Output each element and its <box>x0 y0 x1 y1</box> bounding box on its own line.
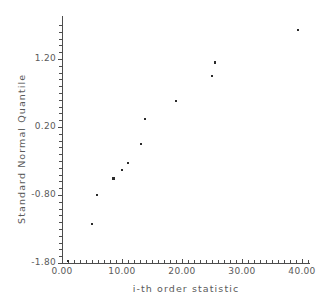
x-minor-tick <box>254 260 255 263</box>
x-minor-tick <box>98 260 99 263</box>
y-minor-tick <box>59 107 62 108</box>
y-major-tick <box>58 263 63 264</box>
x-minor-tick <box>140 260 141 263</box>
y-minor-tick <box>59 202 62 203</box>
y-minor-tick <box>59 154 62 155</box>
y-minor-tick <box>59 229 62 230</box>
data-point <box>91 223 94 226</box>
y-minor-tick <box>59 52 62 53</box>
x-minor-tick <box>134 260 135 263</box>
y-minor-tick <box>59 113 62 114</box>
y-axis-title: Standard Normal Quantile <box>16 74 27 224</box>
x-tick-label: 40.00 <box>287 266 317 276</box>
y-major-tick <box>58 59 63 60</box>
y-minor-tick <box>59 256 62 257</box>
data-point <box>214 61 217 64</box>
x-minor-tick <box>188 260 189 263</box>
x-minor-tick <box>236 260 237 263</box>
y-minor-tick <box>59 147 62 148</box>
y-minor-tick <box>59 141 62 142</box>
y-minor-tick <box>59 222 62 223</box>
x-minor-tick <box>152 260 153 263</box>
y-axis-line <box>62 16 63 264</box>
x-minor-tick <box>218 260 219 263</box>
y-minor-tick <box>59 120 62 121</box>
scatter-plot: 0.0010.0020.0030.0040.00 1.200.20-0.80-1… <box>0 0 325 301</box>
x-major-tick <box>302 259 303 264</box>
y-minor-tick <box>59 161 62 162</box>
y-tick-label: -0.80 <box>24 189 56 199</box>
x-minor-tick <box>92 260 93 263</box>
y-minor-tick <box>59 215 62 216</box>
y-minor-tick <box>59 243 62 244</box>
x-minor-tick <box>272 260 273 263</box>
y-minor-tick <box>59 25 62 26</box>
x-minor-tick <box>146 260 147 263</box>
x-axis-title: i-th order statistic <box>62 283 310 294</box>
data-point <box>121 169 124 172</box>
y-major-tick <box>58 195 63 196</box>
y-tick-label: 1.20 <box>24 53 56 63</box>
y-minor-tick <box>59 79 62 80</box>
y-minor-tick <box>59 93 62 94</box>
x-minor-tick <box>212 260 213 263</box>
x-minor-tick <box>170 260 171 263</box>
y-minor-tick <box>59 86 62 87</box>
data-point <box>112 177 115 180</box>
x-major-tick <box>242 259 243 264</box>
y-minor-tick <box>59 175 62 176</box>
x-tick-label: 10.00 <box>107 266 137 276</box>
x-major-tick <box>122 259 123 264</box>
x-minor-tick <box>164 260 165 263</box>
x-tick-label: 0.00 <box>47 266 77 276</box>
x-minor-tick <box>260 260 261 263</box>
x-minor-tick <box>128 260 129 263</box>
x-minor-tick <box>296 260 297 263</box>
data-point <box>67 260 70 263</box>
x-minor-tick <box>74 260 75 263</box>
x-major-tick <box>62 259 63 264</box>
x-minor-tick <box>284 260 285 263</box>
y-minor-tick <box>59 39 62 40</box>
x-tick-label: 30.00 <box>227 266 257 276</box>
x-major-tick <box>182 259 183 264</box>
x-minor-tick <box>248 260 249 263</box>
x-minor-tick <box>266 260 267 263</box>
y-minor-tick <box>59 209 62 210</box>
y-minor-tick <box>59 188 62 189</box>
data-point <box>297 29 300 32</box>
x-minor-tick <box>86 260 87 263</box>
x-minor-tick <box>200 260 201 263</box>
x-minor-tick <box>80 260 81 263</box>
x-axis-line <box>62 263 310 264</box>
y-minor-tick <box>59 168 62 169</box>
x-minor-tick <box>206 260 207 263</box>
y-minor-tick <box>59 134 62 135</box>
x-minor-tick <box>278 260 279 263</box>
y-minor-tick <box>59 100 62 101</box>
y-tick-label: 0.20 <box>24 121 56 131</box>
x-minor-tick <box>224 260 225 263</box>
data-point <box>96 194 99 197</box>
x-minor-tick <box>110 260 111 263</box>
y-minor-tick <box>59 32 62 33</box>
data-point <box>211 75 214 78</box>
x-tick-label: 20.00 <box>167 266 197 276</box>
x-minor-tick <box>176 260 177 263</box>
y-tick-label: -1.80 <box>24 257 56 267</box>
data-point <box>127 162 130 165</box>
y-minor-tick <box>59 45 62 46</box>
y-minor-tick <box>59 236 62 237</box>
data-point <box>144 118 147 121</box>
y-major-tick <box>58 127 63 128</box>
x-minor-tick <box>290 260 291 263</box>
x-minor-tick <box>104 260 105 263</box>
x-minor-tick <box>230 260 231 263</box>
y-minor-tick <box>59 73 62 74</box>
data-point <box>175 100 178 103</box>
y-minor-tick <box>59 249 62 250</box>
y-minor-tick <box>59 66 62 67</box>
x-minor-tick <box>194 260 195 263</box>
data-point <box>140 143 143 146</box>
x-minor-tick <box>116 260 117 263</box>
